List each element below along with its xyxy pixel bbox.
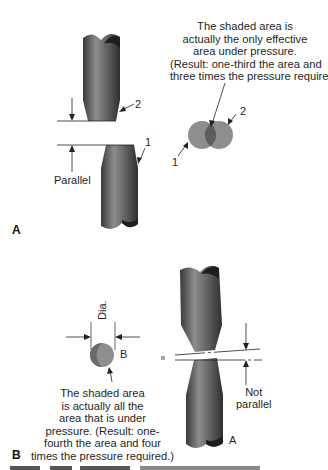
caption-a-line: The shaded area is [170, 20, 320, 33]
electrode-label-a: A [229, 434, 236, 446]
lower-electrode-a [101, 145, 138, 229]
electrode-label-2: 2 [135, 98, 141, 110]
caption-b: The shaded area is actually all the area… [30, 387, 175, 462]
caption-b-line: pressure. (Result: one- [30, 425, 175, 438]
circle-label-1: 1 [172, 156, 178, 168]
arrow-icon [119, 106, 126, 112]
caption-b-line: fourth the area and four [30, 437, 175, 450]
caption-b-line: area that is under [30, 412, 175, 425]
diameter-label: Dia. [96, 300, 108, 320]
panel-label-a: A [12, 223, 21, 237]
caption-a-line: actually the only effective [170, 33, 320, 46]
arrow-icon [137, 157, 142, 164]
caption-a: The shaded area is actually the only eff… [170, 20, 320, 83]
caption-b-line: times the pressure required.) [30, 450, 175, 463]
caption-a-line: (Result: one-third the area and [170, 58, 320, 71]
caption-a-line: area under pressure. [170, 45, 320, 58]
circle-label-2: 2 [240, 105, 246, 117]
caption-b-line: The shaded area [30, 387, 175, 400]
not-parallel-line: Not [236, 386, 271, 398]
arrow-down-icon [69, 114, 75, 121]
upper-electrode-a [83, 34, 120, 121]
circle-label-b: B [120, 348, 127, 360]
parallel-label: Parallel [54, 174, 91, 186]
not-parallel-line: parallel [236, 398, 271, 410]
full-contact-circle [90, 343, 114, 367]
electrode-label-1: 1 [145, 136, 151, 148]
not-parallel-label: Not parallel [236, 386, 271, 410]
lower-electrode-b [186, 358, 223, 448]
caption-a-line: three times the pressure required.) [170, 70, 320, 83]
arrow-up-icon [69, 145, 75, 152]
caption-b-line: is actually all the [30, 400, 175, 413]
upper-electrode-b [180, 266, 222, 352]
panel-label-b: B [12, 448, 21, 462]
